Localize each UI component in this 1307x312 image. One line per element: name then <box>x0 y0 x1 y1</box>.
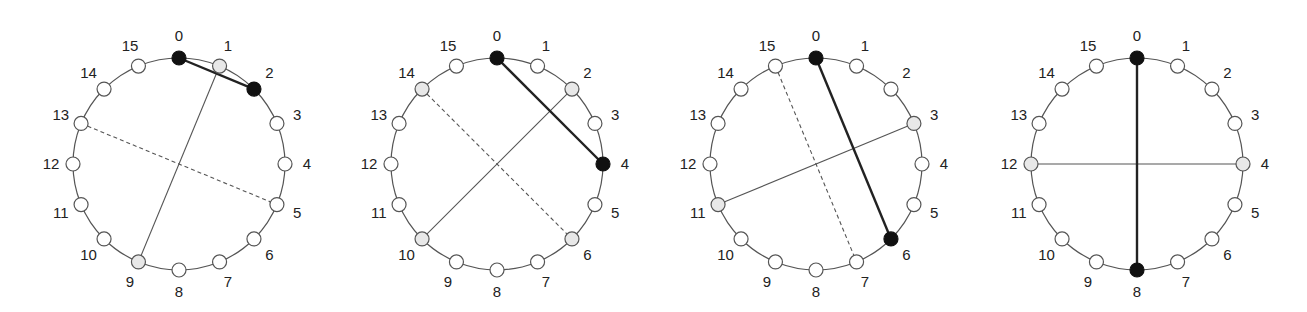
node-4-black <box>596 157 610 171</box>
node-label-10: 10 <box>398 246 415 263</box>
node-label-5: 5 <box>293 204 301 221</box>
node-12-gray <box>1024 157 1038 171</box>
node-12-white <box>66 157 80 171</box>
node-label-13: 13 <box>52 106 69 123</box>
ring-panel-1: 0123456789101112131415 <box>43 27 312 300</box>
node-14-white <box>734 82 748 96</box>
edge-0-6-thick <box>816 58 891 239</box>
node-10-white <box>1055 232 1069 246</box>
node-label-0: 0 <box>175 27 183 44</box>
node-label-11: 11 <box>1011 204 1027 221</box>
node-8-black <box>1130 263 1144 277</box>
node-3-gray <box>907 116 921 130</box>
node-13-white <box>392 116 406 130</box>
node-label-3: 3 <box>611 106 619 123</box>
node-7-white <box>213 255 227 269</box>
node-2-white <box>1205 82 1219 96</box>
node-label-5: 5 <box>930 204 938 221</box>
node-1-white <box>531 59 545 73</box>
node-0-black <box>172 51 186 65</box>
node-4-gray <box>1236 157 1250 171</box>
node-label-12: 12 <box>680 155 697 172</box>
node-0-black <box>1130 51 1144 65</box>
node-4-white <box>278 157 292 171</box>
node-1-white <box>1171 59 1185 73</box>
node-label-11: 11 <box>53 204 69 221</box>
node-label-3: 3 <box>293 106 301 123</box>
node-label-15: 15 <box>122 37 139 54</box>
edge-1-9-thin <box>138 66 219 262</box>
node-13-white <box>711 116 725 130</box>
node-6-white <box>1205 232 1219 246</box>
node-15-white <box>1089 59 1103 73</box>
ring-network-diagram: 0123456789101112131415012345678910111213… <box>0 0 1307 312</box>
node-label-1: 1 <box>224 37 232 54</box>
node-label-13: 13 <box>370 106 387 123</box>
node-5-white <box>270 198 284 212</box>
node-10-white <box>734 232 748 246</box>
node-0-black <box>809 51 823 65</box>
node-7-white <box>1171 255 1185 269</box>
node-7-white <box>531 255 545 269</box>
ring-panel-4: 0123456789101112131415 <box>1001 27 1270 300</box>
node-13-white <box>74 116 88 130</box>
node-label-0: 0 <box>812 27 820 44</box>
node-label-7: 7 <box>1182 273 1190 290</box>
node-label-8: 8 <box>493 283 501 300</box>
node-label-12: 12 <box>1001 155 1018 172</box>
node-label-6: 6 <box>1223 246 1231 263</box>
node-label-7: 7 <box>224 273 232 290</box>
node-9-gray <box>131 255 145 269</box>
node-15-white <box>449 59 463 73</box>
node-8-white <box>490 263 504 277</box>
node-label-8: 8 <box>1133 283 1141 300</box>
node-8-white <box>809 263 823 277</box>
node-label-5: 5 <box>611 204 619 221</box>
node-9-white <box>1089 255 1103 269</box>
node-label-8: 8 <box>175 283 183 300</box>
node-label-11: 11 <box>690 204 706 221</box>
node-label-7: 7 <box>861 273 869 290</box>
node-10-white <box>97 232 111 246</box>
node-12-white <box>703 157 717 171</box>
node-label-15: 15 <box>759 37 776 54</box>
node-11-white <box>392 198 406 212</box>
node-label-12: 12 <box>361 155 378 172</box>
node-3-white <box>270 116 284 130</box>
node-5-white <box>588 198 602 212</box>
node-label-14: 14 <box>80 64 97 81</box>
node-label-6: 6 <box>265 246 273 263</box>
node-label-1: 1 <box>861 37 869 54</box>
node-12-white <box>384 157 398 171</box>
node-1-white <box>850 59 864 73</box>
node-14-white <box>1055 82 1069 96</box>
node-label-10: 10 <box>1038 246 1055 263</box>
node-2-gray <box>565 82 579 96</box>
node-label-15: 15 <box>440 37 457 54</box>
node-label-2: 2 <box>902 64 910 81</box>
node-11-white <box>74 198 88 212</box>
node-label-14: 14 <box>1038 64 1055 81</box>
node-label-1: 1 <box>542 37 550 54</box>
node-label-3: 3 <box>1251 106 1259 123</box>
node-6-white <box>247 232 261 246</box>
node-10-gray <box>415 232 429 246</box>
node-label-13: 13 <box>1010 106 1027 123</box>
node-label-6: 6 <box>902 246 910 263</box>
node-label-2: 2 <box>265 64 273 81</box>
node-6-gray <box>565 232 579 246</box>
node-label-6: 6 <box>583 246 591 263</box>
node-label-13: 13 <box>689 106 706 123</box>
node-label-14: 14 <box>398 64 415 81</box>
node-label-5: 5 <box>1251 204 1259 221</box>
node-9-white <box>768 255 782 269</box>
node-14-gray <box>415 82 429 96</box>
node-label-4: 4 <box>303 155 311 172</box>
node-2-white <box>884 82 898 96</box>
node-3-white <box>1228 116 1242 130</box>
node-label-4: 4 <box>940 155 948 172</box>
node-1-gray <box>213 59 227 73</box>
node-0-black <box>490 51 504 65</box>
node-label-9: 9 <box>444 273 452 290</box>
ring-panel-2: 0123456789101112131415 <box>361 27 630 300</box>
